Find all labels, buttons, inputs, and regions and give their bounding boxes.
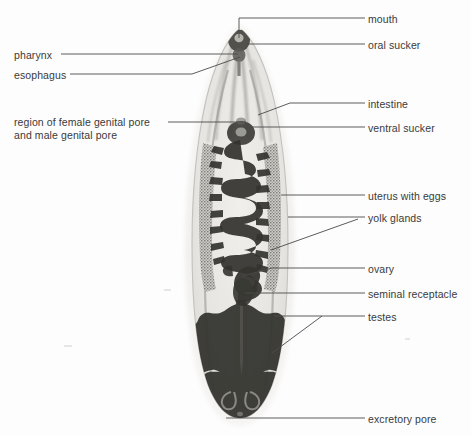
mouth-leader xyxy=(239,18,365,38)
label-esophagus: esophagus xyxy=(14,69,66,82)
yolk-glands-leader-b xyxy=(271,219,358,250)
fluke-anatomy-figure: mouthoral suckerintestineventral suckeru… xyxy=(0,0,471,436)
label-oral-sucker: oral sucker xyxy=(368,39,420,52)
esophagus-leader xyxy=(70,57,240,74)
ovary-leader xyxy=(243,268,365,276)
label-uterus-with-eggs: uterus with eggs xyxy=(368,190,446,203)
testes-leader-b xyxy=(272,316,322,353)
intestine-leader xyxy=(258,103,365,115)
label-pharynx: pharynx xyxy=(14,49,52,62)
label-testes: testes xyxy=(368,311,397,324)
label-mouth: mouth xyxy=(368,13,398,26)
label-yolk-glands: yolk glands xyxy=(368,212,422,225)
label-ventral-sucker: ventral sucker xyxy=(368,122,435,135)
label-excretory-pore: excretory pore xyxy=(368,413,437,426)
label-genital-pore-region: region of female genital pore and male g… xyxy=(14,116,150,141)
label-seminal-receptacle: seminal receptacle xyxy=(368,288,457,301)
label-intestine: intestine xyxy=(368,98,408,111)
label-ovary: ovary xyxy=(368,263,394,276)
